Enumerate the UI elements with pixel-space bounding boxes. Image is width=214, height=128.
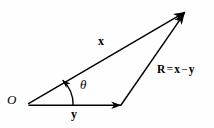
resultant-equation-label: R=x−y (157, 64, 195, 76)
resultant-r-symbol: R (157, 63, 166, 75)
vector-x-label: x (98, 35, 104, 47)
resultant-equals-symbol: = (166, 63, 175, 75)
resultant-minus-symbol: − (180, 63, 189, 75)
vector-diagram-figure: O x y θ R=x−y (0, 0, 214, 128)
vector-r-line (121, 14, 184, 105)
vector-x-line (29, 12, 185, 103)
origin-label: O (7, 93, 16, 106)
angle-arc (63, 81, 73, 106)
resultant-y-symbol: y (189, 63, 195, 75)
vector-y-label: y (71, 108, 77, 120)
angle-theta-label: θ (80, 78, 86, 91)
